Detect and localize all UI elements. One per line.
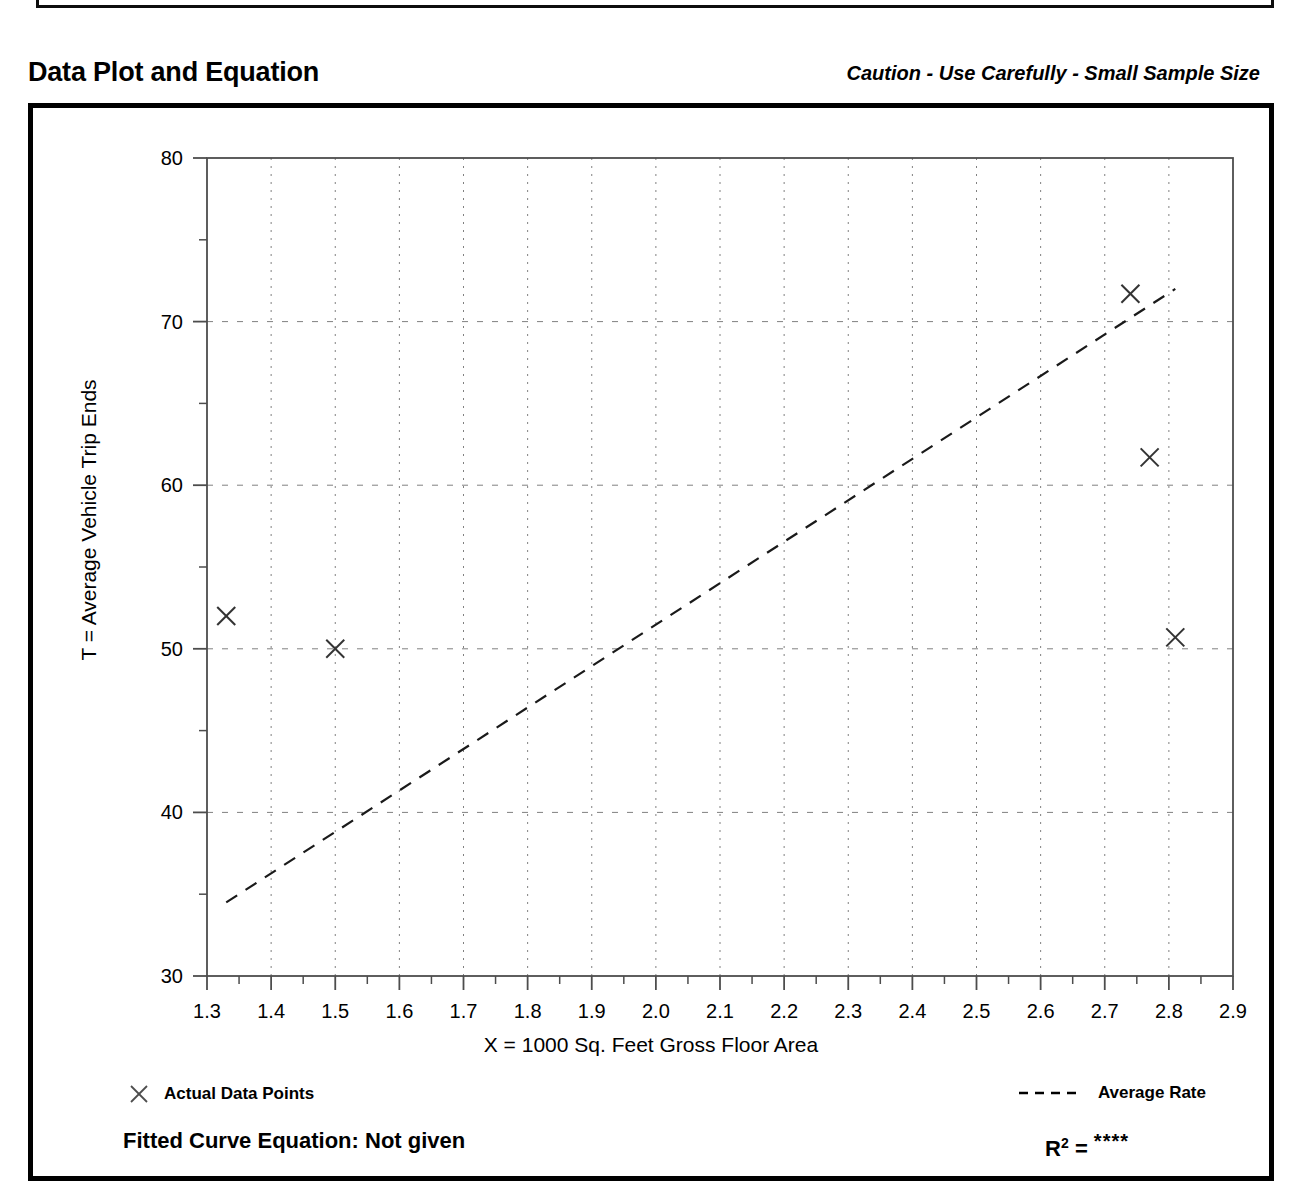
x-marker-icon [128, 1083, 150, 1105]
data-point-x-marker [1141, 448, 1159, 466]
data-point-x-marker [1121, 285, 1139, 303]
svg-text:30: 30 [161, 965, 183, 987]
svg-text:2.5: 2.5 [963, 1000, 991, 1022]
svg-text:80: 80 [161, 147, 183, 169]
dashed-line-icon [1018, 1087, 1084, 1099]
chart-panel: 3040506070801.31.41.51.61.71.81.92.02.12… [28, 103, 1274, 1181]
svg-text:1.4: 1.4 [257, 1000, 285, 1022]
svg-text:2.4: 2.4 [898, 1000, 926, 1022]
svg-text:1.5: 1.5 [321, 1000, 349, 1022]
chart-legend: Actual Data Points Average Rate [33, 1083, 1269, 1117]
r-squared-value: R2 = **** [1045, 1130, 1129, 1162]
svg-text:2.9: 2.9 [1219, 1000, 1247, 1022]
r-squared-equals: = [1069, 1136, 1094, 1161]
legend-label-average-rate: Average Rate [1098, 1083, 1206, 1103]
svg-text:2.1: 2.1 [706, 1000, 734, 1022]
legend-item-actual-data-points: Actual Data Points [128, 1083, 314, 1105]
svg-text:2.6: 2.6 [1027, 1000, 1055, 1022]
fitted-curve-equation: Fitted Curve Equation: Not given [123, 1128, 465, 1154]
svg-text:1.8: 1.8 [514, 1000, 542, 1022]
data-point-x-marker [217, 607, 235, 625]
data-point-x-marker [1166, 628, 1184, 646]
r-squared-stars: **** [1094, 1130, 1129, 1152]
svg-text:2.3: 2.3 [834, 1000, 862, 1022]
svg-text:1.3: 1.3 [193, 1000, 221, 1022]
svg-text:1.7: 1.7 [450, 1000, 478, 1022]
svg-text:2.8: 2.8 [1155, 1000, 1183, 1022]
svg-text:60: 60 [161, 474, 183, 496]
chart-footer: Fitted Curve Equation: Not given R2 = **… [33, 1128, 1269, 1168]
svg-text:50: 50 [161, 638, 183, 660]
legend-item-average-rate: Average Rate [1018, 1083, 1206, 1103]
data-point-markers [217, 285, 1184, 658]
legend-label-actual-data-points: Actual Data Points [164, 1084, 314, 1104]
svg-text:2.7: 2.7 [1091, 1000, 1119, 1022]
svg-text:70: 70 [161, 311, 183, 333]
svg-text:1.6: 1.6 [385, 1000, 413, 1022]
y-axis-title: T = Average Vehicle Trip Ends [77, 370, 101, 670]
r-squared-exponent: 2 [1061, 1135, 1069, 1151]
axis-ticks [193, 158, 1233, 990]
scatter-plot: 3040506070801.31.41.51.61.71.81.92.02.12… [5, 5, 1293, 1199]
svg-text:2.2: 2.2 [770, 1000, 798, 1022]
x-axis-title: X = 1000 Sq. Feet Gross Floor Area [33, 1033, 1269, 1057]
svg-text:1.9: 1.9 [578, 1000, 606, 1022]
gridlines [207, 158, 1233, 976]
axis-tick-labels: 3040506070801.31.41.51.61.71.81.92.02.12… [161, 147, 1247, 1022]
average-rate-line [226, 289, 1175, 903]
svg-text:2.0: 2.0 [642, 1000, 670, 1022]
r-squared-label: R [1045, 1136, 1061, 1161]
svg-text:40: 40 [161, 801, 183, 823]
figure-area: 3040506070801.31.41.51.61.71.81.92.02.12… [33, 108, 1269, 1176]
